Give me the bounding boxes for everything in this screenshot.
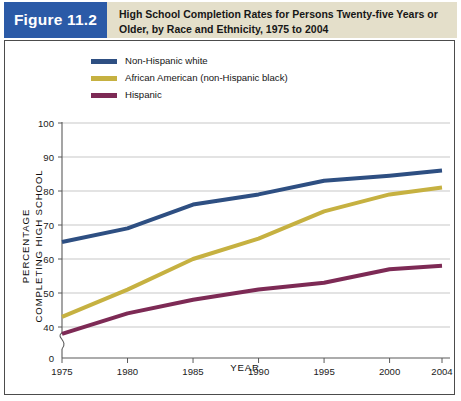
x-axis-tick-label: 2000 xyxy=(379,366,400,377)
y-axis-title-line-1: PERCENTAGE xyxy=(20,209,31,283)
gridlines xyxy=(62,123,450,327)
y-axis-title-line-2: COMPLETING HIGH SCHOOL xyxy=(33,169,44,322)
y-axis-tick-label: 50 xyxy=(43,288,54,299)
line-series-african-american xyxy=(62,188,442,317)
x-axis-tick-label: 1980 xyxy=(117,366,138,377)
x-axis-title: YEAR xyxy=(230,362,260,373)
figure-number-badge: Figure 11.2 xyxy=(4,2,107,38)
y-axis-tick-label: 100 xyxy=(38,118,54,129)
plot-area: 1009080706050400 19751980198519901995200… xyxy=(5,41,456,396)
y-axis-tick-label: 90 xyxy=(43,152,54,163)
line-series-hispanic xyxy=(62,266,442,334)
y-axis-tick-label: 0 xyxy=(49,353,54,364)
figure-title: High School Completion Rates for Persons… xyxy=(107,2,457,38)
figure-title-line-2: Older, by Race and Ethnicity, 1975 to 20… xyxy=(119,22,438,37)
y-axis-tick-label: 60 xyxy=(43,254,54,265)
x-axis-tick-label: 1985 xyxy=(182,366,203,377)
x-axis-tick-label: 1995 xyxy=(313,366,334,377)
chart-frame: Non-Hispanic white African American (non… xyxy=(4,40,455,395)
chart-svg: 1009080706050400 19751980198519901995200… xyxy=(5,41,456,396)
figure-container: Figure 11.2 High School Completion Rates… xyxy=(0,0,461,401)
x-axis-tick-label: 1975 xyxy=(51,366,72,377)
y-axis-tick-label: 70 xyxy=(43,220,54,231)
y-axis-tick-label: 40 xyxy=(43,322,54,333)
y-axis-tick-label: 80 xyxy=(43,186,54,197)
x-axis-tick-label: 2004 xyxy=(431,366,453,377)
line-series-non-hispanic-white xyxy=(62,171,442,242)
y-axis-tick-marks xyxy=(58,123,62,327)
figure-title-line-1: High School Completion Rates for Persons… xyxy=(119,7,438,22)
figure-header-band: Figure 11.2 High School Completion Rates… xyxy=(4,2,457,38)
